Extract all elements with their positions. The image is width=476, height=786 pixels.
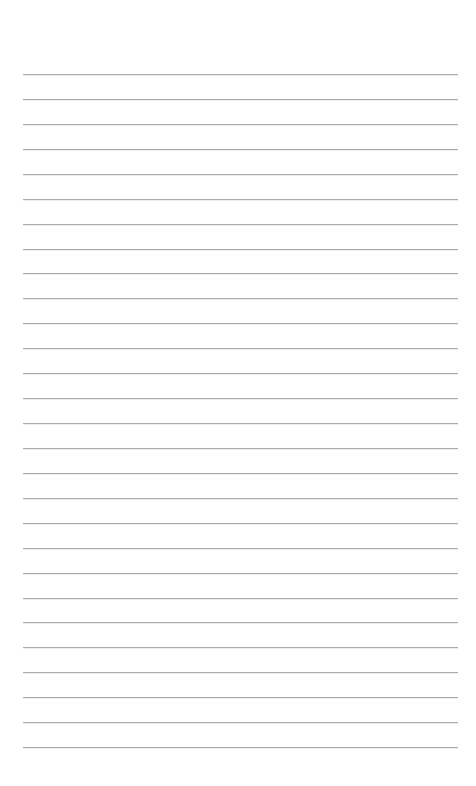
ruled-line: [23, 647, 458, 648]
ruled-line: [23, 722, 458, 723]
ruled-line: [23, 124, 458, 125]
ruled-line: [23, 149, 458, 150]
ruled-line: [23, 398, 458, 399]
ruled-line: [23, 373, 458, 374]
ruled-line: [23, 199, 458, 200]
ruled-line: [23, 473, 458, 474]
ruled-line: [23, 224, 458, 225]
ruled-line: [23, 174, 458, 175]
ruled-line: [23, 697, 458, 698]
ruled-line: [23, 448, 458, 449]
ruled-line: [23, 747, 458, 748]
ruled-line: [23, 99, 458, 100]
ruled-line: [23, 323, 458, 324]
ruled-line: [23, 672, 458, 673]
ruled-line: [23, 348, 458, 349]
ruled-line: [23, 573, 458, 574]
ruled-line: [23, 249, 458, 250]
ruled-line: [23, 498, 458, 499]
ruled-line: [23, 622, 458, 623]
ruled-line: [23, 298, 458, 299]
ruled-line: [23, 548, 458, 549]
ruled-line: [23, 273, 458, 274]
ruled-line: [23, 423, 458, 424]
lined-paper-page: [0, 0, 476, 786]
ruled-line: [23, 74, 458, 75]
ruled-line: [23, 598, 458, 599]
ruled-line: [23, 523, 458, 524]
